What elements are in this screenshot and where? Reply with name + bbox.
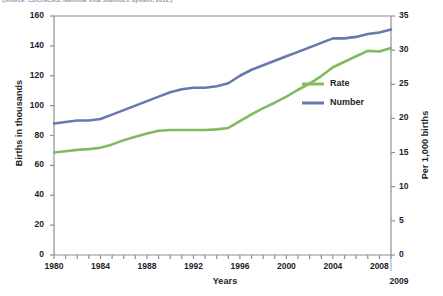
y-axis-right-tick-label: 10 [399,181,429,191]
x-axis-tick-label: 1992 [173,261,213,271]
x-axis-tick-label: 1996 [220,261,260,271]
y-axis-right-tick-label: 25 [399,78,429,88]
legend-label-number: Number [330,97,364,107]
y-axis-right-tick-label: 30 [399,44,429,54]
chart-figure: (Source: CDC/NCHS, National Vital Statis… [0,0,443,296]
y-axis-right-tick-label: 5 [399,215,429,225]
line-chart-plot [0,0,443,296]
series-line-number [54,29,391,123]
y-axis-left-tick-label: 160 [14,10,44,20]
y-axis-left-tick-label: 60 [14,159,44,169]
x-axis-tick-label: 2008 [359,261,399,271]
x-axis-title: Years [170,276,280,286]
x-axis-end-year-label: 2009 [379,276,419,286]
x-axis-tick-label: 2004 [313,261,353,271]
y-axis-right-tick-label: 0 [399,249,429,259]
y-axis-left-tick-label: 120 [14,70,44,80]
y-axis-right-tick-label: 35 [399,10,429,20]
y-axis-left-tick-label: 100 [14,100,44,110]
legend-label-rate: Rate [330,78,350,88]
y-axis-left-tick-label: 140 [14,40,44,50]
y-axis-left-tick-label: 80 [14,130,44,140]
x-axis-tick-label: 1988 [127,261,167,271]
y-axis-left-tick-label: 40 [14,189,44,199]
x-axis-tick-label: 1984 [80,261,120,271]
y-axis-right-tick-label: 15 [399,147,429,157]
y-axis-left-tick-label: 0 [14,249,44,259]
x-axis-tick-label: 1980 [34,261,74,271]
y-axis-left-tick-label: 20 [14,219,44,229]
x-axis-tick-label: 2000 [266,261,306,271]
y-axis-right-tick-label: 20 [399,112,429,122]
